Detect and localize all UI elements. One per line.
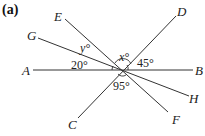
point-F: F (171, 112, 181, 127)
angle-45: 45° (137, 56, 154, 70)
figure-label: (a) (2, 2, 19, 18)
angle-x: x° (118, 50, 129, 64)
point-G: G (27, 28, 37, 43)
point-D: D (176, 4, 187, 19)
point-H: H (188, 91, 199, 106)
angle-y: y° (79, 41, 90, 55)
line-DC (78, 16, 176, 118)
point-A: A (21, 63, 30, 78)
point-B: B (195, 63, 203, 78)
point-E: E (53, 9, 62, 24)
point-C: C (68, 117, 77, 132)
angle-20: 20° (71, 58, 88, 72)
angle-95: 95° (113, 79, 130, 93)
geometry-diagram: (a) A B C D E F G H 20° y° x° 45° 95° (0, 0, 205, 136)
